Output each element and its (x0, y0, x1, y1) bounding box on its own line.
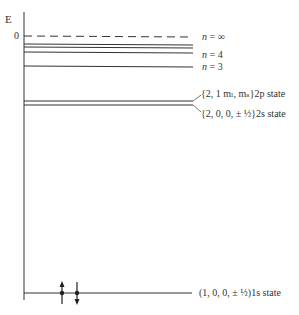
level-n-4 (24, 52, 193, 53)
label-n-3: n = 3 (202, 61, 223, 72)
leader-2s (193, 105, 201, 112)
energy-level-diagram (0, 0, 299, 315)
label-2p-state: {2, 1 mₗ, mₛ}2p state (201, 88, 285, 99)
label-2s-state: {2, 0, 0, ± ½}2s state (201, 108, 286, 119)
axis-label-zero: 0 (14, 30, 19, 41)
leader-2p (193, 95, 201, 101)
level-n-3 (24, 66, 193, 67)
level-n-infinity (24, 36, 193, 37)
label-1s-state: (1, 0, 0, ± ½)1s state (199, 287, 281, 298)
label-n-4: n = 4 (202, 49, 223, 60)
axis-label-e: E (5, 13, 12, 25)
electron-spin-down (75, 282, 80, 305)
level-n-high-2 (24, 47, 193, 48)
electron-spin-up (60, 281, 65, 304)
level-n-high-1 (24, 44, 193, 45)
label-n-infinity: n = ∞ (202, 31, 225, 42)
